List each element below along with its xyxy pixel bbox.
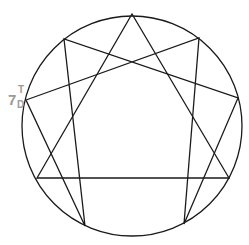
inner-hexad [26, 38, 238, 226]
enneagram-diagram [0, 0, 249, 245]
point-label-subscript: D [17, 99, 24, 110]
point-label-number: 7 [8, 91, 16, 108]
outer-circle [22, 16, 242, 236]
point-label-superscript: T [18, 84, 24, 95]
